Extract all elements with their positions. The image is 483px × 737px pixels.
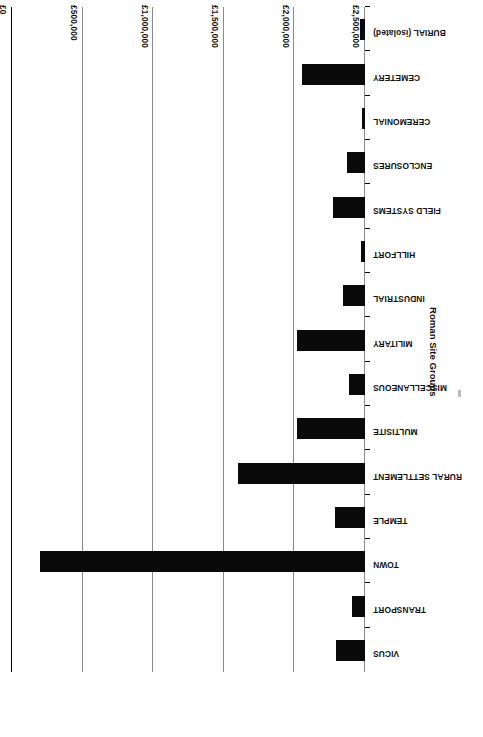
bar-row: INDUSTRIAL: [12, 273, 365, 317]
bar-row: TRANSPORT: [12, 583, 365, 627]
bar: [302, 64, 365, 85]
bar: [336, 640, 365, 661]
chart-figure: Roman Site Groups VICUSTRANSPORTTOWNTEMP…: [0, 0, 483, 737]
category-label: TRANSPORT: [373, 605, 426, 615]
value-tick-label: £1,000,000: [140, 5, 150, 48]
bar-row: ENCLOSURES: [12, 140, 365, 184]
value-tick-label: £2,500,000: [352, 5, 362, 48]
category-tick: [365, 139, 370, 140]
category-tick: [365, 582, 370, 583]
category-tick: [365, 6, 370, 7]
category-label: HILLFORT: [373, 250, 415, 260]
bar: [238, 463, 365, 484]
category-tick: [365, 538, 370, 539]
bar-row: BURIAL (isolated): [12, 7, 365, 51]
category-tick: [365, 50, 370, 51]
bar: [349, 374, 365, 395]
category-label: MILITARY: [373, 339, 412, 349]
category-tick: [365, 183, 370, 184]
bar-row: CEMETERY: [12, 51, 365, 95]
category-label: FIELD SYSTEMS: [373, 206, 441, 216]
category-tick: [365, 449, 370, 450]
category-tick: [365, 494, 370, 495]
print-artifact: [458, 390, 461, 397]
bar-row: HILLFORT: [12, 229, 365, 273]
category-label: MULTISITE: [373, 427, 417, 437]
category-label: CEMETERY: [373, 73, 420, 83]
category-label: INDUSTRIAL: [373, 294, 425, 304]
bar: [333, 197, 365, 218]
category-label: TOWN: [373, 560, 399, 570]
bar-row: TEMPLE: [12, 495, 365, 539]
bar: [361, 241, 365, 262]
bar: [297, 330, 365, 351]
bar: [335, 507, 365, 528]
bar-row: FIELD SYSTEMS: [12, 184, 365, 228]
category-tick: [365, 272, 370, 273]
plot-area: VICUSTRANSPORTTOWNTEMPLERURAL SETTLEMENT…: [12, 7, 365, 672]
bar-row: MILITARY: [12, 317, 365, 361]
category-tick: [365, 361, 370, 362]
category-tick: [365, 95, 370, 96]
bar: [297, 418, 365, 439]
category-label: BURIAL (isolated): [373, 28, 446, 38]
bar-row: TOWN: [12, 539, 365, 583]
value-tick-label: £0: [0, 5, 9, 15]
value-tick-label: £2,000,000: [281, 5, 291, 48]
bar: [352, 596, 365, 617]
bar: [362, 108, 365, 129]
category-label: TEMPLE: [373, 516, 408, 526]
bar: [40, 551, 365, 572]
category-tick: [365, 627, 370, 628]
bar: [343, 285, 365, 306]
bar-row: CEREMONIAL: [12, 96, 365, 140]
category-label: MISCELLANEOUS: [373, 383, 447, 393]
value-tick-label: £500,000: [69, 5, 79, 41]
category-tick: [365, 228, 370, 229]
bar-row: VICUS: [12, 628, 365, 672]
category-label: CEREMONIAL: [373, 117, 430, 127]
category-label: RURAL SETTLEMENT: [373, 472, 462, 482]
bar-row: MISCELLANEOUS: [12, 362, 365, 406]
value-tick-label: £1,500,000: [210, 5, 220, 48]
bar-row: RURAL SETTLEMENT: [12, 450, 365, 494]
category-tick: [365, 405, 370, 406]
category-label: VICUS: [373, 649, 399, 659]
category-label: ENCLOSURES: [373, 161, 432, 171]
category-tick: [365, 316, 370, 317]
bar-row: MULTISITE: [12, 406, 365, 450]
bar: [347, 152, 365, 173]
